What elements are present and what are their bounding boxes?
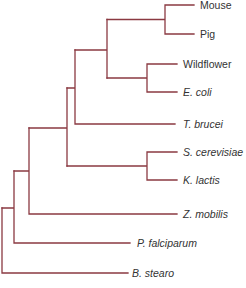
phylogenetic-tree bbox=[0, 0, 246, 288]
branch-bstearo bbox=[2, 208, 128, 273]
taxon-label-p-falciparum: P. falciparum bbox=[137, 237, 197, 249]
branch-scerevisiae-klactis bbox=[67, 152, 177, 180]
branch-node-b bbox=[29, 88, 67, 166]
taxon-label-t-brucei: T. brucei bbox=[183, 118, 223, 130]
taxon-label-z-mobilis: Z. mobilis bbox=[183, 208, 228, 220]
taxon-label-wildflower: Wildflower bbox=[183, 58, 231, 70]
taxon-label-s-cerevisiae: S. cerevisiae bbox=[183, 146, 243, 158]
branch-node-a bbox=[75, 20, 107, 79]
taxon-label-e-coli: E. coli bbox=[183, 86, 212, 98]
branch-pfalciparum bbox=[2, 171, 130, 243]
branch-zmobilis bbox=[14, 128, 177, 214]
taxon-label-pig: Pig bbox=[200, 28, 215, 40]
taxon-label-k-lactis: K. lactis bbox=[183, 174, 220, 186]
taxon-label-mouse: Mouse bbox=[200, 0, 232, 11]
branch-tbrucei bbox=[67, 50, 175, 124]
taxon-label-b-stearo: B. stearo bbox=[132, 267, 174, 279]
branch-mouse-pig bbox=[107, 5, 194, 34]
branch-wildflower-ecoli bbox=[107, 64, 177, 92]
